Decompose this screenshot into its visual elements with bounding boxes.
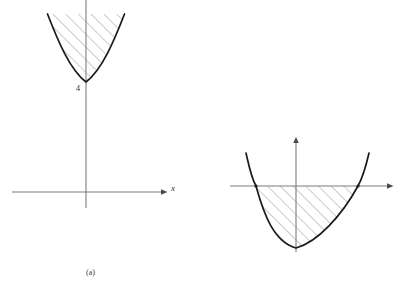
panel-b-x-axis-arrowhead (387, 183, 394, 189)
panel-b-root-marker-right (356, 184, 359, 187)
panel-a-x-axis-label: x (171, 183, 175, 193)
panel-a-graph (0, 0, 208, 297)
panel-a-tick-label-4: 4 (76, 84, 80, 93)
panel-b-root-marker-left (254, 184, 257, 187)
panel-a-x-axis-arrowhead (161, 189, 168, 195)
figure-sheet: 4 x (a) -1 (0, 0, 416, 297)
panel-b-graph (208, 0, 416, 297)
panel-b-y-axis-arrowhead (293, 137, 299, 143)
figure-panel-b: -1 2 x y (b) (208, 0, 416, 297)
figure-panel-a: 4 x (a) (0, 0, 208, 297)
shaded-region-b (256, 186, 358, 248)
panel-a-caption: (a) (86, 268, 95, 277)
